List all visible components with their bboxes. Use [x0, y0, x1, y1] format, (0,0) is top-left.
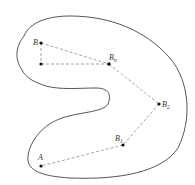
diagram-canvas: B Bn B2 B1 A: [0, 0, 195, 185]
label-a: A: [37, 153, 43, 162]
dashed-path: [41, 43, 159, 166]
label-b2: B2: [162, 100, 170, 110]
point-b: [39, 41, 42, 44]
points: [39, 41, 160, 167]
point-b2: [157, 102, 160, 105]
label-bn: Bn: [109, 53, 117, 63]
point-p: [39, 62, 42, 65]
label-b: B: [33, 38, 38, 47]
label-b1: B1: [115, 134, 123, 144]
point-a: [39, 164, 42, 167]
point-bn: [107, 62, 111, 66]
